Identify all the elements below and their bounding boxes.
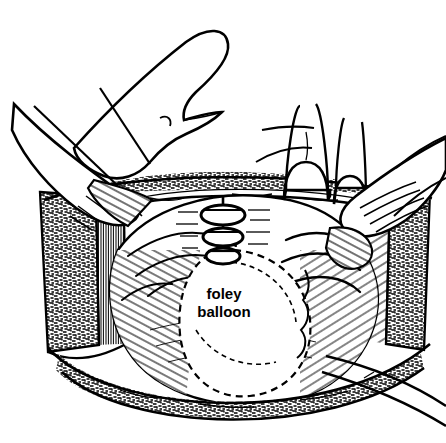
illustration-canvas: foley balloon <box>0 0 446 443</box>
balloon-label-line2: balloon <box>197 303 250 320</box>
balloon-label-line1: foley <box>206 285 242 302</box>
surgical-illustration: foley balloon <box>0 0 446 443</box>
